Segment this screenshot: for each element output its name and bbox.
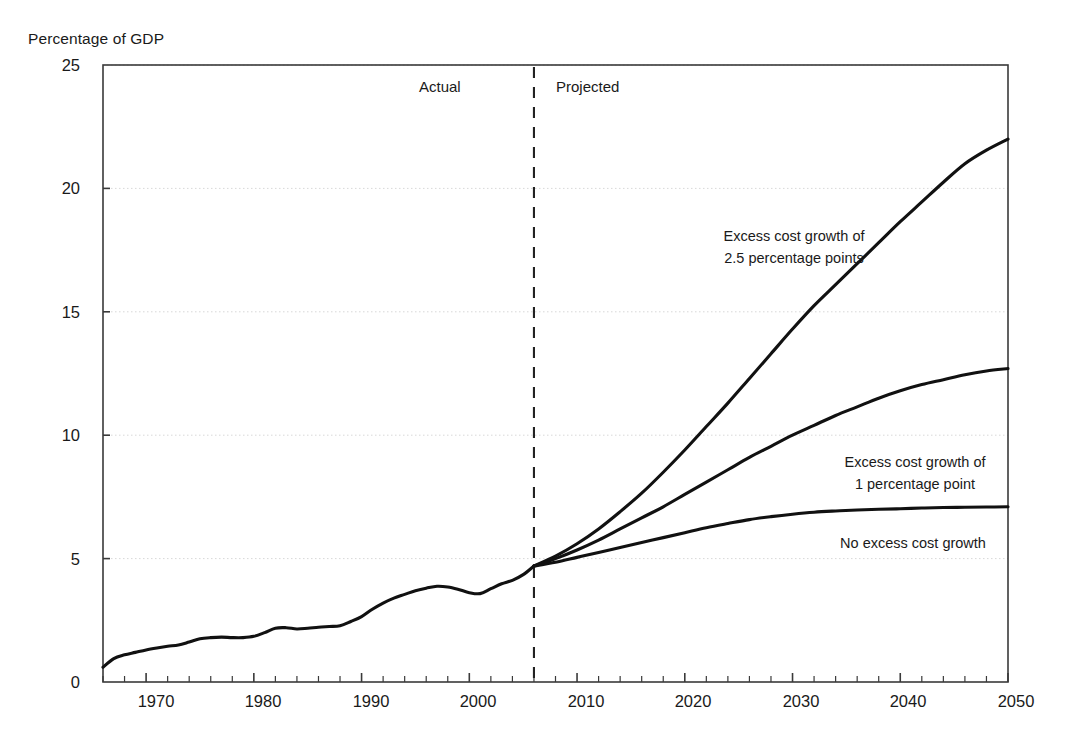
x-tick-label-2030: 2030 <box>761 692 841 711</box>
label-excess-1-line1: Excess cost growth of <box>815 452 1015 474</box>
label-excess-1-line2: 1 percentage point <box>815 474 1015 496</box>
x-tick-label-1990: 1990 <box>331 692 411 711</box>
x-tick-label-2050: 2050 <box>976 692 1056 711</box>
annotation-actual: Actual <box>419 78 461 95</box>
series-lines <box>103 139 1008 667</box>
label-no-excess-line1: No excess cost growth <box>813 533 1013 555</box>
x-tick-label-2010: 2010 <box>546 692 626 711</box>
label-excess-cost-growth-1: Excess cost growth of 1 percentage point <box>815 452 1015 496</box>
label-excess-2-5-line2: 2.5 percentage points <box>688 248 900 270</box>
y-axis-title: Percentage of GDP <box>28 30 164 48</box>
y-tick-label-0: 0 <box>28 673 80 692</box>
plot-frame <box>103 65 1008 682</box>
x-tick-label-1970: 1970 <box>116 692 196 711</box>
x-tick-label-2040: 2040 <box>868 692 948 711</box>
x-tick-label-2000: 2000 <box>438 692 518 711</box>
label-excess-2-5-line1: Excess cost growth of <box>688 226 900 248</box>
label-excess-cost-growth-2-5: Excess cost growth of 2.5 percentage poi… <box>688 226 900 270</box>
label-no-excess-cost-growth: No excess cost growth <box>813 533 1013 555</box>
chart-figure: Percentage of GDP 25 20 15 10 5 0 1970 1… <box>0 0 1068 744</box>
y-tick-label-25: 25 <box>28 56 80 75</box>
y-tick-label-20: 20 <box>28 179 80 198</box>
y-tick-label-10: 10 <box>28 426 80 445</box>
x-tick-label-1980: 1980 <box>223 692 303 711</box>
y-tick-label-5: 5 <box>28 550 80 569</box>
x-tick-label-2020: 2020 <box>653 692 733 711</box>
plot-area <box>0 0 1068 744</box>
annotation-projected: Projected <box>556 78 619 95</box>
y-tick-label-15: 15 <box>28 303 80 322</box>
